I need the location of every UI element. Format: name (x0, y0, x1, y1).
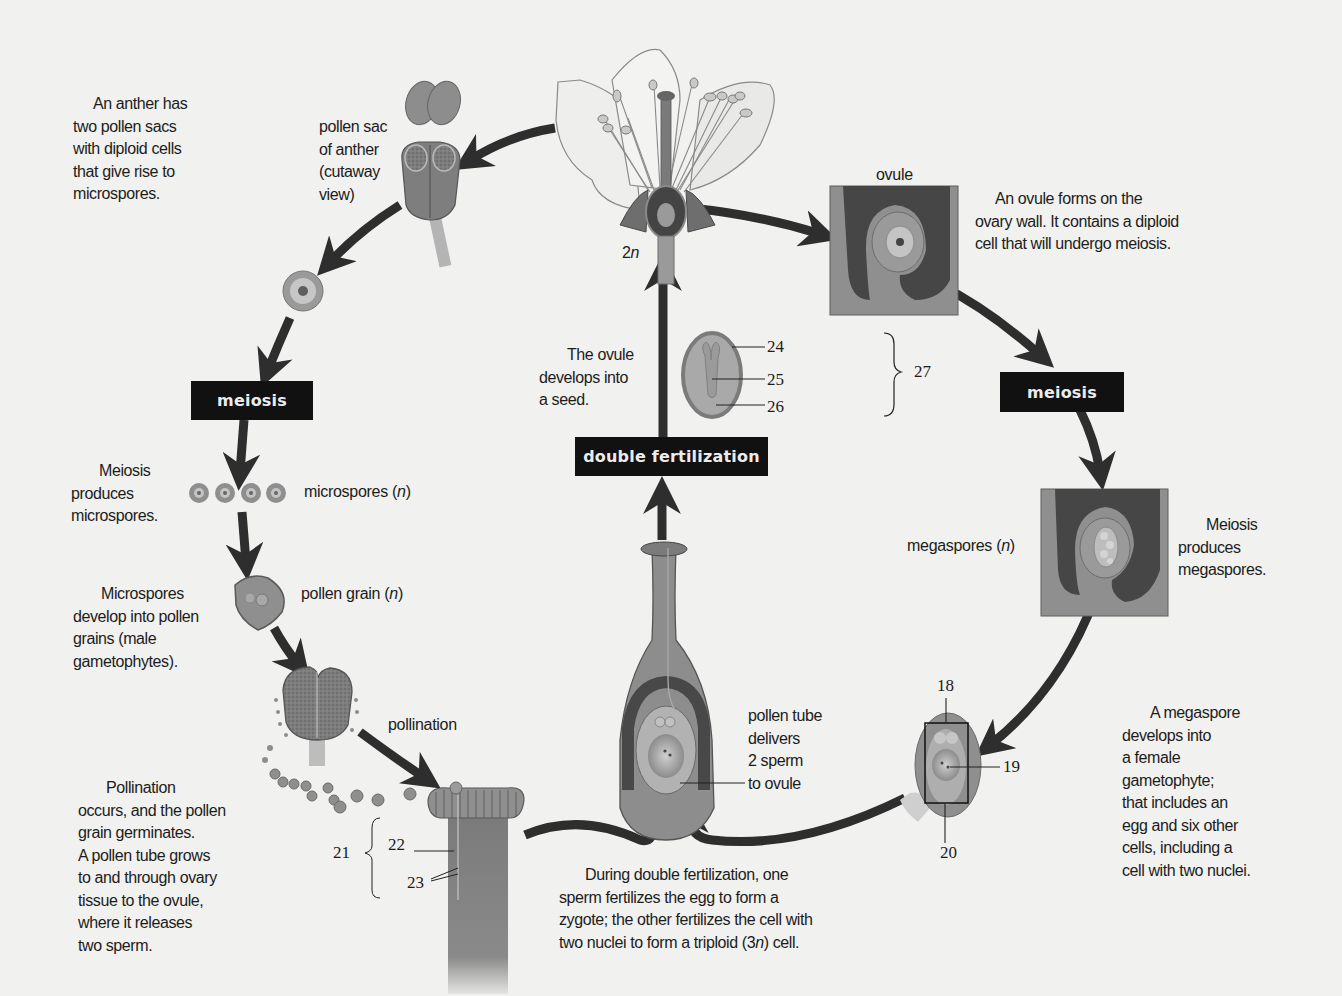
female-gametophyte-illustration (900, 698, 1000, 843)
megaspores-label: megaspores (n) (907, 537, 1015, 555)
seed-illustration (683, 333, 901, 417)
arrow-microspores-to-pollen (242, 512, 246, 562)
callout-19: 19 (1003, 757, 1020, 777)
arrow-meiosis-to-microspores (240, 420, 244, 472)
megaspores-illustration (1041, 489, 1168, 616)
ovule-label: ovule (876, 166, 913, 184)
callout-20: 20 (940, 843, 957, 863)
microspore (241, 483, 261, 503)
caption-meiosis-micro: Meiosis produces microspores. (71, 460, 158, 528)
caption-meiosis-mega: Meiosis produces megaspores. (1178, 514, 1266, 582)
caption-pollination: Pollination occurs, and the pollen grain… (78, 777, 226, 957)
caption-microspores-develop: Microspores develop into pollen grains (… (73, 583, 199, 673)
microspores-label: microspores (n) (304, 483, 411, 501)
double-fertilization-box: double fertilization (575, 437, 768, 476)
pollen-grain-label: pollen grain (n) (301, 585, 403, 603)
pollen-sac-label: pollen sac of anther (cutaway view) (319, 116, 387, 206)
meiosis-box-female: meiosis (1000, 372, 1124, 412)
flower-illustration (556, 49, 774, 284)
flower-ploidy-label: 2n (622, 244, 639, 262)
microspores-illustration (189, 483, 286, 503)
callout-27: 27 (914, 362, 931, 382)
arrow-pollination (360, 732, 425, 778)
pollen-grains-scattered (270, 769, 416, 813)
pollination-label: pollination (388, 716, 457, 734)
anther-illustration (401, 78, 465, 268)
arrow-meiosis-to-megaspores (1080, 410, 1100, 472)
arrow-anther-to-cell (330, 205, 400, 262)
ovary-illustration (620, 542, 745, 840)
meiosis-box-male: meiosis (191, 381, 313, 420)
mature-anther-illustration (262, 667, 416, 813)
caption-double-fertilization: During double fertilization, one sperm f… (559, 864, 813, 954)
callout-26: 26 (767, 397, 784, 417)
pollen-tube-label: pollen tube delivers 2 sperm to ovule (748, 705, 822, 795)
arrow-flower-to-anther (470, 128, 555, 160)
stigma-illustration (428, 782, 524, 994)
caption-seed: The ovule develops into a seed. (539, 344, 634, 412)
callout-21: 21 (333, 843, 350, 863)
arrow-cell-to-meiosis (268, 318, 290, 370)
diploid-cell (283, 271, 323, 311)
arrow-gametophyte-to-ovary (689, 798, 905, 842)
ovule-illustration (830, 186, 958, 315)
callout-18: 18 (937, 676, 954, 696)
microspore (215, 483, 235, 503)
microspore (266, 483, 286, 503)
microspore (189, 483, 209, 503)
pollen-grain-illustration (235, 576, 284, 630)
arrow-pollen-to-anther (274, 628, 298, 664)
arrow-megaspores-to-gametophyte (990, 598, 1095, 745)
caption-megaspore-develops: A megaspore develops into a female gamet… (1122, 702, 1251, 882)
callout-25: 25 (767, 370, 784, 390)
caption-anther: An anther has two pollen sacs with diplo… (73, 93, 187, 206)
callout-24: 24 (767, 337, 784, 357)
callout-22: 22 (388, 835, 405, 855)
caption-ovule-forms: An ovule forms on the ovary wall. It con… (975, 188, 1179, 256)
callout-23: 23 (407, 873, 424, 893)
